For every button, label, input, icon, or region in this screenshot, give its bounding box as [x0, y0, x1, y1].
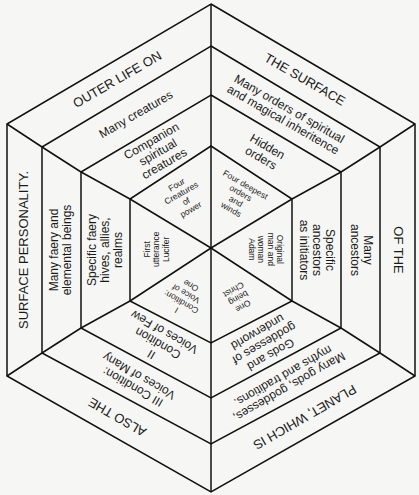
segment-label-line: realms: [111, 232, 125, 268]
ring-divider: [81, 301, 130, 328]
inner-ring-left-segment: FirstutteranceLucifer: [142, 231, 171, 267]
segment-label-line: Lucifer: [161, 236, 171, 262]
ring-divider: [380, 124, 415, 147]
segment-label-line: Specific faery: [85, 214, 99, 286]
segment-label-line: as initiators: [297, 220, 311, 281]
segment-label-line: woman: [256, 235, 266, 264]
ring-divider: [42, 328, 81, 353]
ring-3-top-right-segment: Hiddenorders: [241, 131, 287, 173]
ring-divider: [380, 353, 415, 376]
ring-divider: [292, 172, 341, 199]
inner-ring-top-left-segment: FourCreaturesofpower: [158, 171, 210, 223]
segment-label-line: SURFACE PERSONALITY.: [16, 171, 31, 329]
outer-ring-bottom-left-segment: ALSO THE: [85, 394, 148, 439]
outer-ring-left-segment: SURFACE PERSONALITY.: [16, 171, 31, 329]
segment-label-line: Specific: [323, 229, 337, 271]
ring-2-left-segment: Many faery andelemental beings: [47, 205, 74, 296]
ring-divider: [81, 172, 130, 199]
segment-label-line: Original: [275, 235, 285, 264]
segment-label-line: First: [142, 240, 152, 257]
segment-label-line: ALSO THE: [85, 394, 148, 439]
segment-label-line: ancestors: [348, 224, 362, 276]
ring-divider: [341, 328, 380, 353]
inner-ring-bottom-right-segment: OnebeingChrist: [221, 280, 255, 317]
segment-label-line: Adam: [247, 238, 257, 260]
segment-label-line: Many orders of spiritual: [232, 72, 347, 146]
ring-divider: [292, 301, 341, 328]
ring-2-right-segment: Manyancestors: [348, 224, 375, 276]
ring-3-right-segment: Specificancestorsas initiators: [297, 220, 337, 281]
ring-divider: [42, 147, 81, 172]
ring-3-top-left-segment: Companionspiritualcreatures: [121, 120, 194, 185]
ring-divider: [341, 147, 380, 172]
ring-3-left-segment: Specific faeryhives, allies,realms: [85, 214, 125, 286]
hexagon-diagram: OUTER LIFE ONTHE SURFACEOF THEPLANET, WH…: [0, 0, 419, 495]
outer-ring-right-segment: OF THE: [391, 226, 406, 274]
segment-label-line: ancestors: [310, 224, 324, 276]
segment-label-line: elemental beings: [60, 205, 74, 296]
segment-label-line: OF THE: [391, 226, 406, 274]
segment-label-line: utterance: [151, 231, 161, 267]
inner-ring-bottom-left-segment: ICondition:Voice ofOne: [157, 272, 209, 324]
inner-ring-right-segment: Originalman andwomanAdam: [247, 233, 286, 266]
ring-divider: [7, 124, 42, 147]
segment-label-line: hives, allies,: [98, 217, 112, 282]
segment-label-line: man and: [266, 233, 276, 266]
ring-divider: [7, 353, 42, 376]
